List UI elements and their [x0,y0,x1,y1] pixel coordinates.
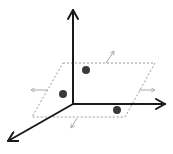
arrow-down-left-icon [71,118,77,128]
arrow-up-right-icon [106,51,114,63]
coordinate-plane-diagram [0,0,173,154]
point-1 [82,66,90,74]
coordinate-axes [8,10,165,141]
plane-outline [32,63,155,117]
depth-axis [8,104,73,141]
dashed-plane [32,63,155,117]
point-2 [59,90,67,98]
point-3 [113,106,121,114]
